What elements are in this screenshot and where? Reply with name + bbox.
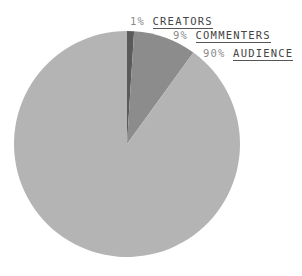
label-audience: 90% AUDIENCE: [203, 47, 293, 59]
label-commenters: 9% COMMENTERS: [173, 29, 271, 41]
label-creators: 1% CREATORS: [130, 15, 213, 27]
slice-audience: [14, 31, 240, 257]
